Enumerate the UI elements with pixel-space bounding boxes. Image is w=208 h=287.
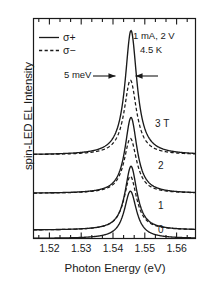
- plot-frame: [34, 19, 196, 239]
- curve-label-1t: 1: [158, 200, 164, 211]
- curve-2t-sigma-plus: [34, 118, 196, 193]
- curve-label-3t: 3 T: [155, 118, 169, 129]
- curve-0t-sigma-plus: [34, 191, 196, 238]
- spectra-curves: [34, 31, 196, 239]
- curve-3t-sigma-plus: [34, 31, 196, 155]
- curve-1t-sigma-plus: [34, 166, 196, 229]
- curve-2t-sigma-minus: [34, 138, 196, 193]
- figure-spin-led-el-spectra: spin-LED EL Intensity: [0, 0, 208, 287]
- legend-label-sigma-minus: σ−: [63, 44, 76, 56]
- x-tick-label-4: 1.56: [157, 242, 197, 254]
- curve-label-2t: 2: [158, 160, 164, 171]
- annotation-linewidth: 5 meV: [64, 69, 91, 80]
- legend-lines: [39, 38, 59, 51]
- annotation-temperature: 4.5 K: [140, 44, 162, 55]
- annotation-current-voltage: 1 mA, 2 V: [133, 30, 175, 41]
- legend-label-sigma-plus: σ+: [63, 31, 76, 43]
- curve-label-0t: 0: [158, 224, 164, 235]
- x-axis-title: Photon Energy (eV): [33, 262, 197, 274]
- curve-3t-sigma-minus: [34, 80, 196, 154]
- curve-1t-sigma-minus: [34, 176, 196, 230]
